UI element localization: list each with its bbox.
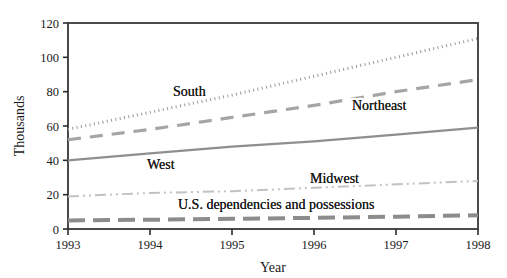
x-axis-title: Year xyxy=(260,260,286,275)
y-axis-tick-label: 120 xyxy=(40,17,59,31)
series-label: West xyxy=(147,157,175,172)
x-axis-tick-label: 1996 xyxy=(302,238,327,252)
y-axis-title: Thousands xyxy=(12,96,27,157)
series-label: Northeast xyxy=(352,98,407,113)
x-axis-tick-label: 1993 xyxy=(56,238,81,252)
y-axis-tick-label: 100 xyxy=(40,51,59,65)
series-line-south xyxy=(68,38,478,129)
y-axis-tick-label: 0 xyxy=(53,223,59,237)
series-line-us xyxy=(68,215,478,220)
series-line-west xyxy=(68,128,478,161)
x-axis-tick-label: 1998 xyxy=(466,238,491,252)
y-axis-tick-label: 80 xyxy=(47,85,60,99)
y-axis-tick-label: 60 xyxy=(47,120,60,134)
series-label: U.S. dependencies and possessions xyxy=(178,197,374,212)
x-axis-tick-label: 1997 xyxy=(384,238,409,252)
chart-canvas: 020406080100120199319941995199619971998Y… xyxy=(0,0,507,278)
series-label: South xyxy=(173,84,206,99)
series-line-northeast xyxy=(68,80,478,140)
y-axis-tick-label: 20 xyxy=(47,188,60,202)
series-line-midwest xyxy=(68,181,478,196)
line-chart: 020406080100120199319941995199619971998Y… xyxy=(0,0,507,278)
x-axis-tick-label: 1995 xyxy=(220,238,245,252)
y-axis-tick-label: 40 xyxy=(47,154,60,168)
series-label: Midwest xyxy=(310,171,359,186)
x-axis-tick-label: 1994 xyxy=(138,238,164,252)
